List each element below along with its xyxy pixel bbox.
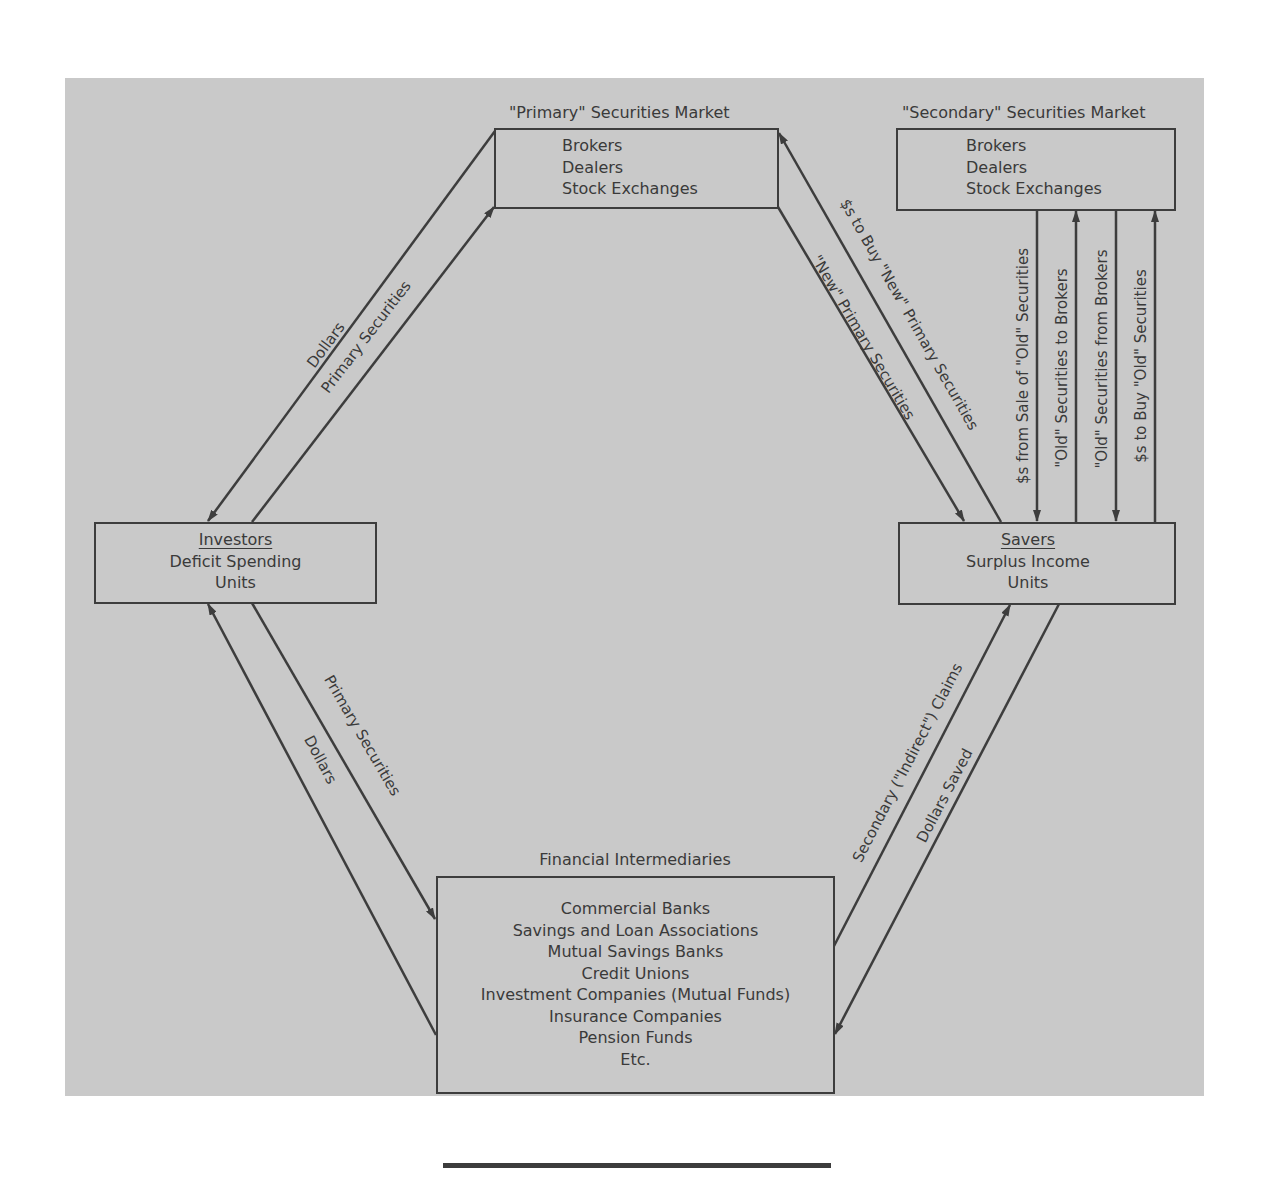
label-old-to-brokers: "Old" Securities to Brokers [1053,268,1071,467]
primary-market-title: "Primary" Securities Market [509,103,730,122]
arrow-primary-securities-to-market [252,207,494,522]
horizontal-rule [443,1163,831,1168]
label-dollars-buy-old: $s to Buy "Old" Securities [1132,269,1150,463]
label-dollars-lower-left: Dollars [300,732,341,787]
savers-text: Savers Surplus Income Units [898,529,1158,594]
investors-text: Investors Deficit Spending Units [94,529,377,594]
intermediary-item: Savings and Loan Associations [436,920,835,942]
arrow-dollars-to-investors [208,131,495,521]
primary-market-list: Brokers Dealers Stock Exchanges [562,135,698,200]
label-new-primary-securities: "New" Primary Securities [808,252,919,423]
primary-item: Dealers [562,157,698,179]
investors-line: Deficit Spending [94,551,377,573]
savers-line: Units [898,572,1158,594]
intermediaries-list: Commercial Banks Savings and Loan Associ… [436,898,835,1070]
label-dollars-from-sale: $s from Sale of "Old" Securities [1014,248,1032,484]
primary-item: Stock Exchanges [562,178,698,200]
intermediary-item: Investment Companies (Mutual Funds) [436,984,835,1006]
intermediary-item: Etc. [436,1049,835,1071]
label-dollars-saved: Dollars Saved [913,746,977,846]
secondary-item: Brokers [966,135,1102,157]
secondary-market-title: "Secondary" Securities Market [902,103,1145,122]
investors-line: Units [94,572,377,594]
intermediary-item: Pension Funds [436,1027,835,1049]
label-old-from-brokers: "Old" Securities from Brokers [1093,249,1111,468]
intermediaries-title: Financial Intermediaries [436,850,834,869]
secondary-item: Stock Exchanges [966,178,1102,200]
savers-line: Surplus Income [898,551,1158,573]
secondary-item: Dealers [966,157,1102,179]
primary-item: Brokers [562,135,698,157]
intermediary-item: Credit Unions [436,963,835,985]
intermediary-item: Insurance Companies [436,1006,835,1028]
intermediary-item: Commercial Banks [436,898,835,920]
intermediary-item: Mutual Savings Banks [436,941,835,963]
investors-heading: Investors [199,530,272,549]
savers-heading: Savers [1001,530,1055,549]
arrow-securities-to-fi [252,603,435,919]
label-secondary-claims: Secondary ("Indirect") Claims [849,660,967,865]
arrow-claims-to-savers [834,605,1010,946]
arrow-fi-dollars-to-investors [208,604,436,1035]
secondary-market-list: Brokers Dealers Stock Exchanges [966,135,1102,200]
